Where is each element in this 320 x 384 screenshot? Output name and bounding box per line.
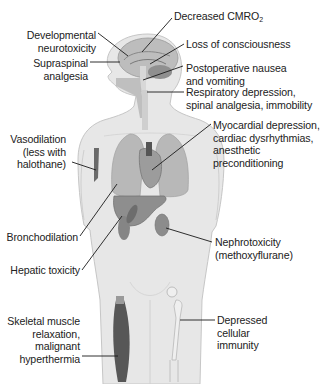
label-line: cardiac dysrhythmias,	[213, 132, 320, 145]
label-line: Depressed	[217, 314, 267, 327]
label-line: halothane)	[10, 158, 66, 171]
label-nephrotoxicity: Nephrotoxicity (methoxyflurane)	[215, 236, 293, 261]
label-line: Respiratory depression,	[186, 86, 312, 99]
label-bronchodilation: Bronchodilation	[6, 231, 78, 244]
label-postoperative-nausea: Postoperative nausea and vomiting	[186, 62, 286, 87]
label-line: preconditioning	[213, 157, 320, 170]
label-line: Supraspinal	[33, 57, 88, 70]
label-line: (less with	[10, 146, 66, 159]
label-line: Loss of consciousness	[186, 38, 290, 51]
label-line: Skeletal muscle	[7, 315, 80, 328]
label-line: immunity	[217, 339, 267, 352]
label-developmental-neurotoxicity: Developmental neurotoxicity	[27, 29, 96, 54]
label-line: anesthetic	[213, 144, 320, 157]
label-hepatic-toxicity: Hepatic toxicity	[10, 264, 80, 277]
label-line: analgesia	[33, 70, 88, 83]
label-line: Nephrotoxicity	[215, 236, 293, 249]
label-supraspinal-analgesia: Supraspinal analgesia	[33, 57, 88, 82]
label-cmro2-text: Decreased CMRO	[174, 10, 259, 22]
label-respiratory-depression: Respiratory depression, spinal analgesia…	[186, 86, 312, 111]
label-line: Myocardial depression,	[213, 119, 320, 132]
label-myocardial-depression: Myocardial depression, cardiac dysrhythm…	[213, 119, 320, 169]
label-line: Developmental	[27, 29, 96, 42]
label-line: (methoxyflurane)	[215, 249, 293, 262]
label-line: Hepatic toxicity	[10, 264, 80, 277]
label-line: spinal analgesia, immobility	[186, 99, 312, 112]
label-decreased-cmro2: Decreased CMRO2	[174, 10, 263, 23]
label-line: malignant	[7, 340, 80, 353]
label-depressed-immunity: Depressed cellular immunity	[217, 314, 267, 352]
label-line: Postoperative nausea	[186, 62, 286, 75]
label-line: hyperthermia	[7, 353, 80, 366]
label-cmro2-subscript: 2	[259, 16, 263, 23]
label-skeletal-muscle: Skeletal muscle relaxation, malignant hy…	[7, 315, 80, 365]
kidney	[155, 214, 169, 236]
label-line: neurotoxicity	[27, 42, 96, 55]
label-line: relaxation,	[7, 328, 80, 341]
label-loss-of-consciousness: Loss of consciousness	[186, 38, 290, 51]
label-line: Bronchodilation	[6, 231, 78, 244]
anesthetic-effects-diagram: Decreased CMRO2 Developmental neurotoxic…	[0, 0, 320, 384]
label-vasodilation: Vasodilation (less with halothane)	[10, 133, 66, 171]
label-line: cellular	[217, 327, 267, 340]
label-line: Vasodilation	[10, 133, 66, 146]
